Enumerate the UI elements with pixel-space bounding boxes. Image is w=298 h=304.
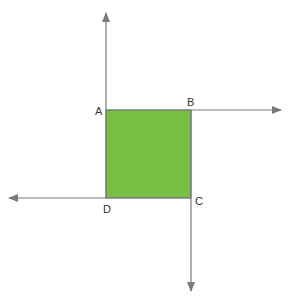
vertex-label-d: D bbox=[103, 203, 111, 215]
vertex-label-a: A bbox=[95, 105, 102, 117]
vertex-label-c: C bbox=[195, 195, 203, 207]
vertex-label-b: B bbox=[187, 96, 194, 108]
green-square bbox=[106, 110, 191, 198]
square-diagram bbox=[0, 0, 298, 304]
